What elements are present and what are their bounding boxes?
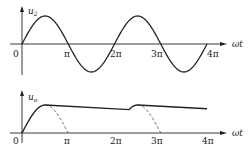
top-tick-4pi: 4π bbox=[207, 49, 219, 59]
top-tick-2pi: 2π bbox=[110, 49, 122, 59]
bottom-tick-pi: π bbox=[64, 136, 70, 145]
bottom-plot: uo ωt 0 π 2π 3π 4π bbox=[10, 90, 243, 145]
top-plot: u2 ωt 0 π 2π 3π 4π bbox=[10, 6, 243, 75]
top-origin-label: 0 bbox=[13, 49, 19, 59]
bottom-x-axis-arrow-icon bbox=[220, 131, 227, 135]
top-x-axis-arrow-icon bbox=[220, 42, 227, 46]
top-y-axis-arrow-icon bbox=[20, 6, 24, 12]
top-tick-pi: π bbox=[64, 49, 70, 59]
waveform-diagram: u2 ωt 0 π 2π 3π 4π uo ωt 0 π 2π 3π 4π bbox=[0, 0, 250, 145]
top-x-label: ωt bbox=[232, 39, 243, 49]
bottom-dashed-halfwave-1 bbox=[45, 105, 68, 133]
bottom-output-curve bbox=[22, 105, 207, 133]
top-y-label: u2 bbox=[28, 6, 38, 17]
bottom-tick-3pi: 3π bbox=[151, 136, 163, 145]
bottom-tick-2pi: 2π bbox=[110, 136, 122, 145]
bottom-x-label: ωt bbox=[232, 128, 243, 138]
bottom-y-axis-arrow-icon bbox=[20, 90, 24, 96]
bottom-origin-label: 0 bbox=[13, 136, 19, 145]
bottom-tick-4pi: 4π bbox=[202, 136, 214, 145]
top-tick-3pi: 3π bbox=[151, 49, 163, 59]
bottom-y-label: uo bbox=[28, 92, 38, 103]
bottom-dashed-halfwave-2 bbox=[138, 105, 161, 133]
